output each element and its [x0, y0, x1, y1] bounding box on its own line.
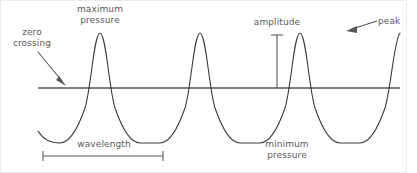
label-maximum-pressure: maximum pressure	[62, 4, 138, 25]
label-amplitude: amplitude	[243, 17, 311, 28]
label-zero-crossing: zero crossing	[4, 27, 60, 48]
wave-diagram-figure: zero crossing maximum pressure amplitude…	[0, 0, 417, 173]
zero-crossing-arrow	[38, 52, 66, 86]
label-wavelength: wavelength	[54, 139, 154, 150]
label-peak: peak	[378, 16, 412, 27]
wavelength-measure-bar	[43, 151, 163, 161]
label-minimum-pressure: minimum pressure	[249, 139, 325, 160]
peak-arrow	[346, 21, 377, 33]
amplitude-measure-line	[271, 35, 283, 88]
